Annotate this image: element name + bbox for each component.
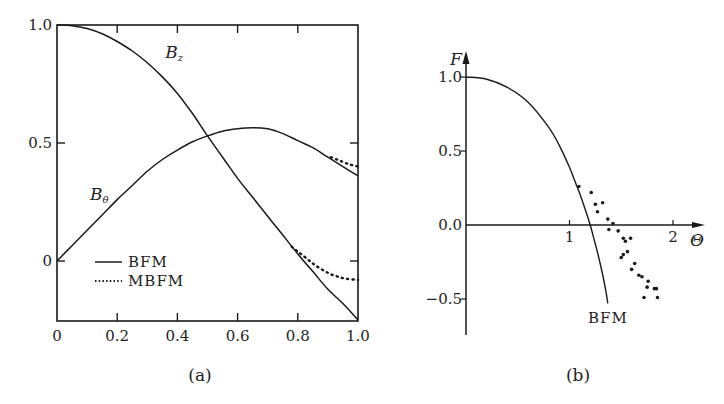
theta-axis-arrow-icon [692, 222, 705, 228]
data-point-marker [637, 274, 641, 278]
f-tick-label: 0.0 [438, 216, 462, 234]
panel-b-series [466, 77, 659, 303]
data-point-marker [594, 202, 598, 206]
data-point-marker [611, 222, 615, 226]
data-point-marker [577, 185, 581, 189]
data-point-marker [646, 279, 650, 283]
panel-a-legend: BFMMBFM [95, 253, 184, 290]
y-tick-label: 0 [42, 252, 52, 270]
f-tick-label: −0.5 [426, 290, 462, 308]
bfm-curve-label: BFM [588, 309, 628, 327]
data-point-marker [619, 256, 623, 260]
legend-label: BFM [128, 253, 168, 271]
x-tick-label: 1.0 [346, 327, 370, 345]
data-point-marker [656, 296, 660, 300]
y-tick-label: 0.5 [28, 134, 52, 152]
data-point-marker [645, 285, 649, 289]
theta-tick-label: 1 [565, 228, 575, 246]
data-point-marker [607, 228, 611, 232]
theta-tick-label: 2 [668, 228, 678, 246]
data-point-marker [606, 217, 610, 221]
f-axis-arrow-icon [463, 51, 470, 64]
data-point-marker [596, 210, 600, 214]
figure: 00.20.40.60.81.0 00.51.0 Bz Bθ BFMMBFM (… [0, 0, 724, 404]
panel-b-caption: (b) [566, 365, 590, 385]
data-point-marker [633, 262, 637, 266]
panel-b-axes [463, 51, 706, 335]
panel-a-chart: 00.20.40.60.81.0 00.51.0 Bz Bθ BFMMBFM (… [28, 16, 370, 385]
data-point-marker [622, 237, 626, 241]
series-bfm-curve [466, 77, 608, 303]
data-point-marker [642, 296, 646, 300]
data-point-marker [655, 287, 659, 291]
btheta-curve-label: Bθ [89, 184, 109, 205]
x-tick-label: 0 [52, 327, 62, 345]
data-point-marker [589, 191, 593, 195]
data-point-marker [626, 250, 630, 254]
data-point-marker [601, 201, 605, 205]
panel-b-ticks: 121.00.50.0−0.5 [426, 68, 678, 308]
data-point-marker [629, 237, 633, 241]
series-b-z-mbfm- [292, 247, 358, 280]
panel-a-caption: (a) [188, 365, 211, 385]
f-tick-label: 1.0 [438, 68, 462, 86]
panel-a-frame [57, 25, 358, 321]
series-b-z-bfm- [57, 25, 358, 320]
panel-a-series [57, 25, 358, 320]
y-tick-label: 1.0 [28, 16, 52, 34]
x-tick-label: 0.4 [165, 327, 189, 345]
x-tick-label: 0.6 [226, 327, 250, 345]
data-point-marker [622, 253, 626, 257]
subscript: z [177, 52, 184, 63]
data-point-marker [616, 229, 620, 233]
bz-curve-label: Bz [164, 42, 184, 63]
theta-axis-label: Θ [690, 230, 704, 250]
f-axis-label: F [449, 49, 463, 69]
data-point-marker [630, 268, 634, 272]
data-point-marker [624, 239, 628, 243]
legend-label: MBFM [128, 272, 184, 290]
data-point-marker [640, 275, 644, 279]
subscript: θ [103, 194, 109, 205]
f-tick-label: 0.5 [438, 142, 462, 160]
panel-b-chart: 121.00.50.0−0.5 BFM Θ F (b) [426, 49, 705, 385]
x-tick-label: 0.8 [286, 327, 310, 345]
panel-a-y-ticks: 00.51.0 [28, 16, 358, 270]
x-tick-label: 0.2 [105, 327, 129, 345]
